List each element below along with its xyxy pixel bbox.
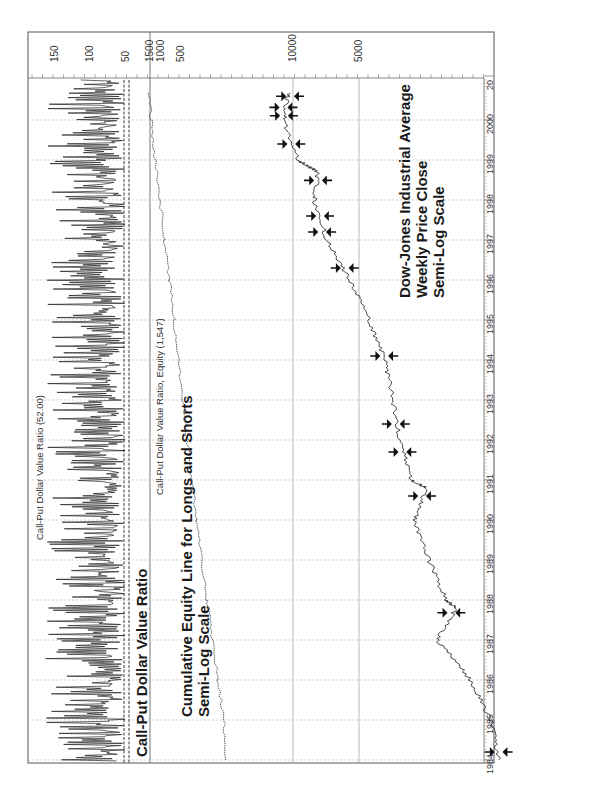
year-tick-label: 20 <box>485 80 495 90</box>
djia-annotation-line3: Semi-Log Scale <box>430 186 447 298</box>
year-tick-label: 1998 <box>485 194 495 214</box>
signal-arrow-icon <box>295 93 304 99</box>
signal-arrow-icon <box>407 449 416 455</box>
signal-arrow-icon <box>437 610 446 616</box>
signal-arrow-icon <box>306 213 315 219</box>
signal-arrow-icon <box>327 229 336 235</box>
signal-arrow-icon <box>277 141 286 147</box>
value-tick-label: 10000 <box>287 34 298 62</box>
signal-arrow-icon <box>382 421 391 427</box>
year-tick-label: 1985 <box>485 714 495 734</box>
year-tick-label: 1992 <box>485 434 495 454</box>
signal-arrow-icon <box>388 449 397 455</box>
djia-annotation-line2: Weekly Price Close <box>413 161 430 298</box>
value-tick-label: 5000 <box>353 40 364 62</box>
signal-arrow-icon <box>504 749 513 755</box>
value-tick-label: 50 <box>120 51 131 62</box>
value-tick-label: 1000 <box>155 40 166 62</box>
cpdvr-panel-title: Call-Put Dollar Value Ratio (52.00) <box>34 395 45 540</box>
signal-arrow-icon <box>270 113 279 119</box>
value-tick-label: 150 <box>49 45 60 62</box>
signal-arrow-icon <box>304 177 313 183</box>
signal-arrow-icon <box>331 265 340 271</box>
year-tick-label: 1997 <box>485 234 495 254</box>
year-tick-label: 1999 <box>485 154 495 174</box>
year-tick-label: 1988 <box>485 594 495 614</box>
cpdvr-annotation: Call-Put Dollar Value Ratio <box>133 569 150 757</box>
year-tick-label: 1994 <box>485 354 495 374</box>
year-tick-label: 1995 <box>485 314 495 334</box>
chart-canvas <box>0 0 589 789</box>
value-tick-label: 1500 <box>144 40 155 62</box>
signal-arrow-icon <box>325 213 334 219</box>
equity-annotation-line1: Cumulative Equity Line for Longs and Sho… <box>178 395 195 717</box>
signal-arrow-icon <box>323 177 332 183</box>
equity-panel-title: Call-Put Dollar Value Ratio, Equity (1,5… <box>154 318 165 495</box>
year-tick-label: 1987 <box>485 634 495 654</box>
djia-annotation-line1: Dow-Jones Industrial Average <box>396 84 413 298</box>
year-tick-label: 1984 <box>485 754 495 774</box>
year-tick-label: 1993 <box>485 394 495 414</box>
year-tick-label: 1990 <box>485 514 495 534</box>
signal-arrow-icon <box>296 141 305 147</box>
signal-arrow-icon <box>308 229 317 235</box>
signal-arrow-icon <box>456 610 465 616</box>
signal-arrow-icon <box>276 93 285 99</box>
chart-page: 1501005015001000500100005000 20200019991… <box>0 0 589 789</box>
year-tick-label: 1996 <box>485 274 495 294</box>
signal-arrow-icon <box>389 353 398 359</box>
cpdvr-line <box>46 80 125 761</box>
year-tick-label: 1991 <box>485 474 495 494</box>
signal-arrow-icon <box>350 265 359 271</box>
year-tick-label: 2000 <box>485 114 495 134</box>
signal-arrow-icon <box>408 493 417 499</box>
signal-arrow-icon <box>401 421 410 427</box>
data-series <box>46 80 513 763</box>
year-tick-label: 1986 <box>485 674 495 694</box>
equity-annotation-line2: Semi-Log Scale <box>195 605 212 717</box>
signal-arrow-icon <box>370 353 379 359</box>
signal-arrow-icon <box>269 104 278 110</box>
signal-arrow-icon <box>289 113 298 119</box>
value-tick-label: 100 <box>84 45 95 62</box>
value-tick-label: 500 <box>175 45 186 62</box>
djia-line <box>283 93 500 760</box>
signal-arrow-icon <box>427 493 436 499</box>
year-tick-label: 1989 <box>485 554 495 574</box>
